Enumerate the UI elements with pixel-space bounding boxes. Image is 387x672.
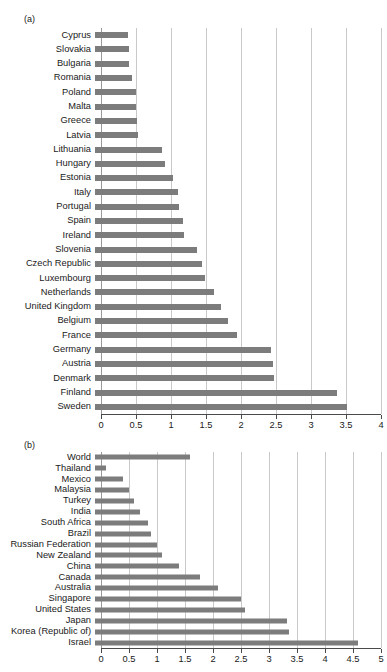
bar [95,629,289,634]
category-label: Lithuania [0,145,95,154]
bar-row: Denmark [0,371,387,385]
bar [95,32,128,38]
bar [95,640,358,645]
x-tick-label: 4 [322,654,327,664]
bar [95,553,162,558]
category-label: World [0,453,95,462]
bar [95,147,162,153]
bar [95,607,245,612]
category-label: France [0,331,95,340]
bar [95,46,129,52]
bar [95,499,134,504]
category-label: Hungary [0,159,95,168]
bar [95,161,165,167]
bar-track [95,539,375,550]
bar [95,466,106,471]
bar [95,218,183,224]
bar [95,361,273,367]
category-label: Malaysia [0,485,95,494]
category-label: Belgium [0,316,95,325]
bar-track [95,637,375,648]
category-label: Finland [0,388,95,397]
bar-row: China [0,561,387,572]
bar-track [95,572,375,583]
bar-row: Canada [0,572,387,583]
bar-track [95,496,375,507]
bar-row: Belgium [0,314,387,328]
bar [95,455,190,460]
x-tick-label: 3 [266,654,271,664]
bar [95,488,129,493]
bar-row: Luxembourg [0,271,387,285]
bar-row: Italy [0,185,387,199]
category-label: United Kingdom [0,302,95,311]
bar-track [95,583,375,594]
bar-row: Brazil [0,528,387,539]
category-label: Germany [0,345,95,354]
bar-track [95,257,375,271]
category-label: Mexico [0,475,95,484]
x-tick-label: 4 [378,420,383,430]
x-tick-label: 2.5 [270,420,283,430]
bar [95,304,221,310]
category-label: Slovakia [0,45,95,54]
bar-row: Sweden [0,400,387,414]
x-tick-label: 0 [98,654,103,664]
x-tick-label: 2 [238,420,243,430]
bar-track [95,371,375,385]
bar-track [95,594,375,605]
x-tick [353,649,354,653]
category-label: United States [0,605,95,614]
category-label: New Zealand [0,551,95,560]
category-label: Czech Republic [0,259,95,268]
x-tick [325,649,326,653]
bar-row: Cyprus [0,28,387,42]
bar [95,247,197,253]
x-tick-label: 0.5 [123,654,136,664]
bar [95,575,200,580]
bar [95,104,136,110]
bar-row: Romania [0,71,387,85]
category-label: India [0,507,95,516]
bar [95,332,237,338]
bar-track [95,474,375,485]
x-tick [297,649,298,653]
category-label: Turkey [0,496,95,505]
bar-track [95,128,375,142]
category-label: Israel [0,638,95,647]
bar-track [95,485,375,496]
x-tick [276,415,277,419]
bar-track [95,271,375,285]
x-tick-label: 1.5 [200,420,213,430]
x-tick [171,415,172,419]
category-label: Estonia [0,173,95,182]
bar [95,61,129,67]
x-tick [381,649,382,653]
x-tick-label: 3.5 [340,420,353,430]
bar-track [95,626,375,637]
category-label: Denmark [0,374,95,383]
bar-track [95,528,375,539]
category-label: Malta [0,102,95,111]
bar [95,75,132,81]
bar-row: Singapore [0,594,387,605]
bar-row: France [0,328,387,342]
x-tick [157,649,158,653]
x-tick-label: 0 [98,420,103,430]
bar [95,520,148,525]
bar [95,261,202,267]
bar-track [95,328,375,342]
x-ticks-b: 00.511.522.533.544.55 [101,649,381,665]
bar-track [95,400,375,414]
figure-page: (a) CyprusSlovakiaBulgariaRomaniaPolandM… [0,0,387,672]
x-tick-label: 2 [210,654,215,664]
bar-row: Austria [0,357,387,371]
category-label: China [0,562,95,571]
x-tick-label: 1.5 [179,654,192,664]
bar-track [95,561,375,572]
bar-row: Hungary [0,157,387,171]
bar-track [95,228,375,242]
panel-a-label: (a) [24,14,35,24]
bar-track [95,42,375,56]
bar-track [95,285,375,299]
